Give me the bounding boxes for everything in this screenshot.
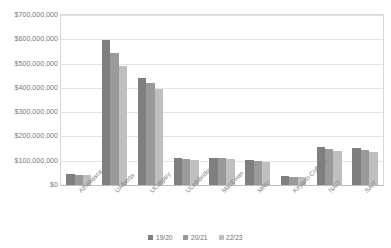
legend-item[interactable]: 20/21 [183, 234, 207, 241]
bar-group [352, 15, 377, 185]
x-axis: AthabascaUAlbertaUCalgaryULethbridgeMacE… [61, 187, 383, 235]
x-axis-tick: SAIT [347, 187, 383, 235]
bar [218, 158, 226, 185]
y-axis-tick-label: $600,000,000 [0, 35, 58, 43]
bar [182, 159, 190, 185]
x-axis-tick: UCalgary [133, 187, 169, 235]
x-axis-tick: NAIT [311, 187, 347, 235]
legend-swatch-icon [183, 235, 188, 240]
bars-layer [61, 15, 383, 185]
x-axis-tick: MRU [240, 187, 276, 235]
y-axis-tick-label: $400,000,000 [0, 84, 58, 92]
y-axis-tick-label: $0 [0, 181, 58, 189]
legend-label: 22/23 [226, 234, 243, 241]
bar-group [281, 15, 306, 185]
bar-group [102, 15, 127, 185]
x-axis-tick: UAlberta [97, 187, 133, 235]
y-axis-tick-label: $500,000,000 [0, 60, 58, 68]
bar [146, 83, 154, 185]
bar [138, 78, 146, 185]
bar [110, 53, 118, 185]
y-axis: $0$100,000,000$200,000,000$300,000,000$4… [0, 14, 58, 186]
bar-chart: $0$100,000,000$200,000,000$300,000,000$4… [0, 0, 391, 248]
bar-group [174, 15, 199, 185]
legend-label: 20/21 [191, 234, 208, 241]
bar [361, 150, 369, 185]
bar-group [209, 15, 234, 185]
x-axis-tick: MacEwan [204, 187, 240, 235]
chart-legend: 19/2020/2122/23 [0, 234, 391, 241]
legend-swatch-icon [148, 235, 153, 240]
legend-item[interactable]: 19/20 [148, 234, 172, 241]
bar [66, 174, 74, 185]
legend-item[interactable]: 22/23 [219, 234, 243, 241]
bar [102, 40, 110, 185]
legend-label: 19/20 [156, 234, 173, 241]
x-axis-tick: ULethbridge [168, 187, 204, 235]
bar [254, 161, 262, 185]
y-axis-tick-label: $700,000,000 [0, 11, 58, 19]
y-axis-tick-label: $300,000,000 [0, 108, 58, 116]
bar-group [138, 15, 163, 185]
bar [325, 149, 333, 185]
x-axis-tick: Keyano College [276, 187, 312, 235]
legend-swatch-icon [219, 235, 224, 240]
bar [174, 158, 182, 185]
y-axis-tick-label: $200,000,000 [0, 132, 58, 140]
bar [245, 160, 253, 185]
y-axis-tick-label: $100,000,000 [0, 157, 58, 165]
bar [352, 148, 360, 185]
bar [281, 176, 289, 185]
x-axis-tick: Athabasca [61, 187, 97, 235]
bar [119, 66, 127, 185]
bar-group [245, 15, 270, 185]
bar-group [66, 15, 91, 185]
bar [155, 89, 163, 185]
